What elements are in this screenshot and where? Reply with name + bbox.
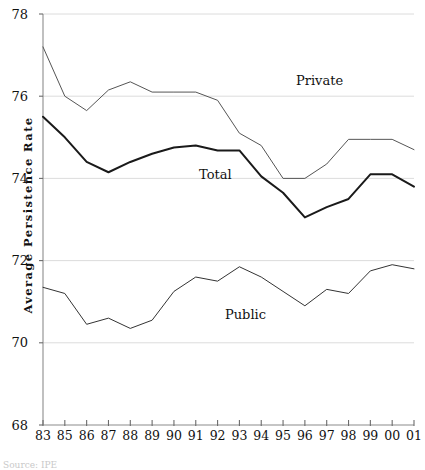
x-tick-label-98: 98: [337, 430, 361, 443]
x-tick-label-89: 89: [140, 430, 164, 443]
x-tick-label-94: 94: [249, 430, 273, 443]
y-tick-label: 70: [2, 336, 28, 349]
x-tick-label-85: 85: [53, 430, 77, 443]
x-tick-label-92: 92: [206, 430, 230, 443]
series-lines-group: [43, 47, 414, 329]
x-tick-label-87: 87: [96, 430, 120, 443]
y-tick-label: 76: [2, 90, 28, 103]
y-tick-label: 78: [2, 8, 28, 21]
x-tick-label-97: 97: [315, 430, 339, 443]
x-tick-label-90: 90: [162, 430, 186, 443]
y-tick-label: 68: [2, 419, 28, 432]
series-line-private: [43, 47, 414, 179]
axes-group: [39, 14, 414, 425]
x-tick-label-00: 00: [380, 430, 404, 443]
x-tick-label-99: 99: [358, 430, 382, 443]
y-tick-68: 68: [0, 419, 28, 432]
y-tick-70: 70: [0, 336, 28, 349]
y-tick-76: 76: [0, 90, 28, 103]
series-label-total: Total: [199, 168, 232, 181]
x-tick-label-83: 83: [31, 430, 55, 443]
y-tick-72: 72: [0, 254, 28, 267]
y-tick-label: 74: [2, 172, 28, 185]
x-tick-label-01: 01: [402, 430, 425, 443]
x-tick-label-96: 96: [293, 430, 317, 443]
x-tick-label-88: 88: [118, 430, 142, 443]
series-label-private: Private: [296, 74, 343, 87]
y-tick-78: 78: [0, 8, 28, 21]
x-tick-label-93: 93: [227, 430, 251, 443]
x-tick-label-86: 86: [75, 430, 99, 443]
y-tick-74: 74: [0, 172, 28, 185]
y-tick-label: 72: [2, 254, 28, 267]
source-note: Source: IPE: [3, 461, 57, 470]
x-tick-label-95: 95: [271, 430, 295, 443]
x-tick-label-91: 91: [184, 430, 208, 443]
series-label-public: Public: [225, 308, 266, 321]
